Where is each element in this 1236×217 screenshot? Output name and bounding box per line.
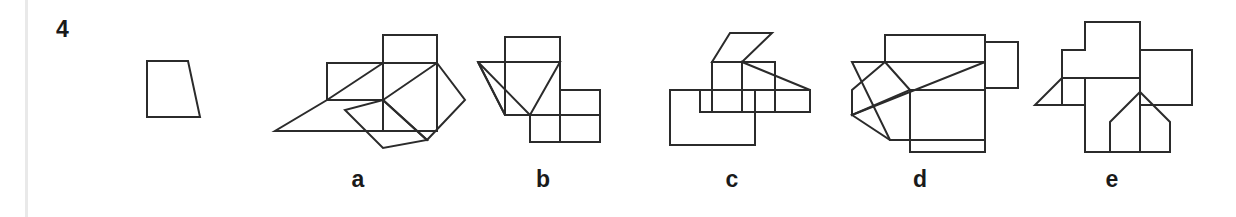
option-figure-d-part-3 [985,42,1018,88]
option-label-e[interactable]: e [1092,168,1132,191]
option-figure-a-part-4 [383,63,437,131]
option-figure-a-part-5 [383,63,465,140]
option-figure-c [670,33,810,145]
option-figure-b-part-1 [505,37,560,62]
option-figure-d [852,35,1018,152]
option-figure-e-part-1 [1062,22,1192,152]
reference-trapezoid-part-1 [147,61,200,117]
option-figure-c-part-1 [712,33,772,62]
question-panel: 4 abcde [0,0,1236,217]
reference-trapezoid [147,61,200,117]
option-label-b[interactable]: b [523,168,563,191]
option-label-a[interactable]: a [338,168,378,191]
option-figure-b-part-2 [478,62,560,115]
option-label-c[interactable]: c [712,168,752,191]
option-figure-d-part-6 [852,62,910,115]
option-figure-a [275,35,465,148]
option-figure-d-part-1 [885,35,985,62]
option-figure-c-part-3 [712,62,775,112]
option-figure-b-part-3 [505,62,560,115]
option-figure-a-part-1 [383,35,437,63]
option-figure-e-part-3 [1085,78,1140,152]
option-figure-e-part-2 [1035,78,1085,105]
figures-layer [0,0,1236,217]
option-figure-a-part-6 [345,100,427,148]
option-figure-e [1035,22,1192,152]
option-figure-b-part-5 [530,115,600,142]
option-figure-d-part-4 [910,90,985,152]
option-figure-e-part-4 [1140,50,1192,105]
option-label-d[interactable]: d [900,168,940,191]
option-figure-b [478,37,600,142]
option-figure-a-part-3 [275,63,383,131]
